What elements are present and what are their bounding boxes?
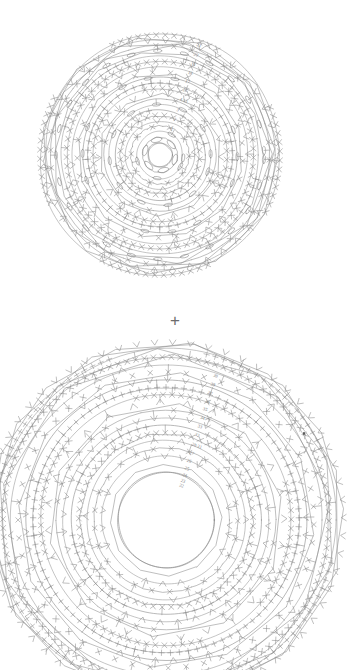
round-number-label: 35 bbox=[202, 406, 209, 413]
upper-crochet-chart: 2120191817164-15321 bbox=[0, 0, 350, 300]
lower-chart-svg: 393837363534333228-31272625242322 bbox=[0, 340, 350, 670]
round-number-label: 38 bbox=[210, 381, 217, 388]
upper-chart-svg: 2120191817164-15321 bbox=[0, 0, 350, 300]
round-number-label: 33 bbox=[197, 423, 204, 430]
lower-crochet-chart: 393837363534333228-31272625242322 bbox=[0, 340, 350, 658]
round-number-label: 2 bbox=[173, 117, 178, 123]
round-number-label: 17 bbox=[185, 78, 192, 85]
lower-round-labels: 393837363534333228-31272625242322 bbox=[179, 373, 220, 489]
plus-separator-glyph: + bbox=[170, 312, 180, 329]
round-number-label: 25 bbox=[184, 465, 191, 472]
round-number-label: 26 bbox=[186, 458, 193, 465]
round-number-label: 20 bbox=[193, 52, 200, 59]
round-number-label: 36 bbox=[205, 398, 212, 405]
round-number-label: 37 bbox=[207, 390, 214, 397]
round-number-label: 32 bbox=[194, 432, 201, 439]
round-number-label: 28-31 bbox=[191, 441, 202, 449]
scan-artifact-dot bbox=[303, 432, 305, 435]
round-number-label: 34 bbox=[200, 415, 207, 422]
plus-separator: + bbox=[0, 300, 350, 340]
round-number-label: 22 bbox=[179, 483, 186, 490]
round-number-label: 39 bbox=[213, 373, 220, 380]
